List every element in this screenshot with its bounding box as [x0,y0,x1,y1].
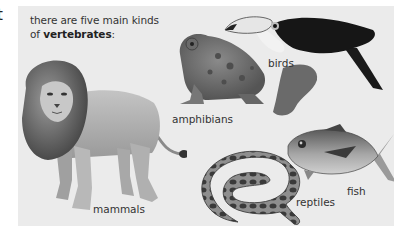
tuna-illustration [284,124,394,192]
toucan-illustration [223,8,394,118]
cropped-text-fragment: t [0,6,3,24]
lion-illustration [18,58,187,218]
vertebrates-term: vertebrates [43,28,111,40]
intro-line-2-suffix: : [112,28,115,40]
intro-line-2-prefix: of [30,28,43,40]
birds-label: birds [268,57,294,69]
intro-line-1: there are five main kinds [30,14,159,26]
intro-heading: there are five main kinds of vertebrates… [30,13,159,41]
mammals-label: mammals [93,203,145,215]
vertebrates-illustration-panel: there are five main kinds of vertebrates… [18,6,394,226]
fish-label: fish [347,185,366,197]
reptiles-label: reptiles [296,196,335,208]
